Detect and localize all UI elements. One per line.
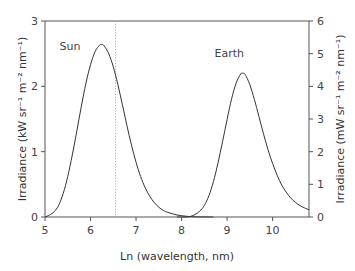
left-y-axis-ticks: 0123 <box>31 15 45 224</box>
sun-label: Sun <box>60 40 81 53</box>
left-y-tick-label: 0 <box>31 211 38 224</box>
right-y-tick-label: 5 <box>317 48 324 61</box>
sun-curve <box>45 44 213 217</box>
x-tick-label: 7 <box>133 224 140 237</box>
right-y-tick-label: 1 <box>317 178 324 191</box>
curves-layer <box>45 44 309 217</box>
right-y-tick-label: 0 <box>317 211 324 224</box>
x-tick-label: 10 <box>266 224 280 237</box>
x-tick-label: 6 <box>87 224 94 237</box>
earth-curve <box>177 73 309 217</box>
right-y-axis-ticks: 0123456 <box>309 15 324 224</box>
right-y-axis-title: Irradiance (mW sr⁻¹ m⁻² nm⁻¹) <box>334 35 347 204</box>
left-y-tick-label: 2 <box>31 80 38 93</box>
right-y-tick-label: 3 <box>317 113 324 126</box>
right-y-tick-label: 2 <box>317 146 324 159</box>
plot-frame <box>45 21 309 217</box>
annotations-layer: SunEarth <box>60 40 245 60</box>
x-tick-label: 5 <box>42 224 49 237</box>
irradiance-chart: 5678910 0123 0123456 SunEarth Ln (wavele… <box>0 0 355 271</box>
x-tick-label: 9 <box>224 224 231 237</box>
x-axis-ticks: 5678910 <box>42 217 280 237</box>
right-y-tick-label: 4 <box>317 80 324 93</box>
x-tick-label: 8 <box>178 224 185 237</box>
left-y-axis-title: Irradiance (kW sr⁻¹ m⁻² nm⁻¹) <box>16 37 29 202</box>
left-y-tick-label: 1 <box>31 146 38 159</box>
right-y-tick-label: 6 <box>317 15 324 28</box>
earth-label: Earth <box>215 47 245 60</box>
x-axis-title: Ln (wavelength, nm) <box>120 250 234 263</box>
left-y-tick-label: 3 <box>31 15 38 28</box>
